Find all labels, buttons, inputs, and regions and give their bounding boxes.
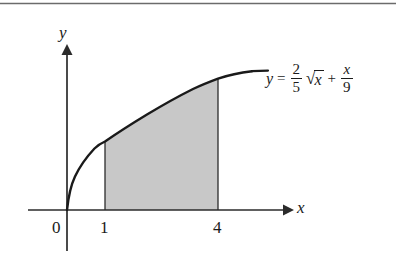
coefficient-numerator: 2 (291, 62, 303, 78)
y-axis-label: y (59, 24, 67, 41)
equation-equals-sign: = (277, 70, 285, 87)
x-tick-label-4: 4 (213, 219, 222, 236)
x-axis-label: x (297, 199, 305, 216)
equation-plus-sign: + (328, 70, 336, 87)
function-equation-label: y = 2 5 √ x + x 9 (266, 62, 354, 95)
figure-root: y x 0 1 4 y = 2 5 √ x + x 9 (0, 0, 408, 260)
equation-second-term-fraction: x 9 (341, 62, 353, 95)
coefficient-denominator: 5 (291, 78, 303, 95)
x-tick-label-1: 1 (100, 219, 109, 236)
second-term-denominator: 9 (341, 78, 353, 95)
square-root-expression: √ x (306, 70, 323, 88)
radicand-variable: x (314, 70, 323, 88)
second-term-numerator: x (341, 62, 352, 78)
shaded-area-region (105, 79, 218, 210)
x-axis-arrowhead (283, 205, 294, 216)
equation-lhs-variable: y (266, 70, 273, 88)
y-axis-arrowhead (62, 44, 73, 55)
equation-coefficient-fraction: 2 5 (291, 62, 303, 95)
x-tick-label-0: 0 (52, 219, 61, 236)
